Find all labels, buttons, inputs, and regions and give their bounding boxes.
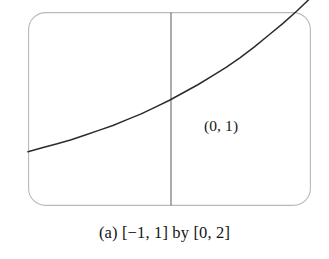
window-frame-rect (29, 13, 311, 206)
figure-caption: (a) [−1, 1] by [0, 2] (0, 224, 329, 242)
plot-svg (28, 12, 311, 206)
intercept-point-label: (0, 1) (204, 118, 238, 134)
figure-container: (0, 1) (a) [−1, 1] by [0, 2] (0, 0, 329, 259)
plot-viewing-window: (0, 1) (28, 12, 311, 206)
